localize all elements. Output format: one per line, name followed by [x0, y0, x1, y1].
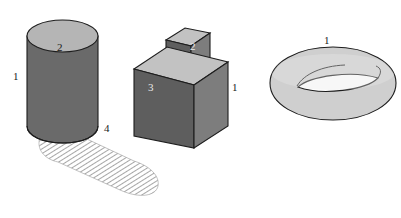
label-cube-left-face: 3	[148, 82, 154, 93]
illustration-canvas: A B 1 2 4 2 3 1 1	[0, 0, 401, 218]
label-torus: 1	[324, 35, 330, 46]
label-cylinder-top: 2	[57, 42, 63, 53]
torus-shape	[270, 47, 396, 120]
label-small-cube: 2	[190, 41, 196, 52]
shapes-svg: A B	[0, 0, 401, 218]
big-cube-shape: A B	[134, 0, 230, 190]
cylinder-shape	[27, 20, 98, 143]
label-cube-right-face: 1	[232, 82, 238, 93]
label-cylinder-side: 1	[13, 71, 19, 82]
label-cylinder-shadow: 4	[104, 123, 110, 134]
